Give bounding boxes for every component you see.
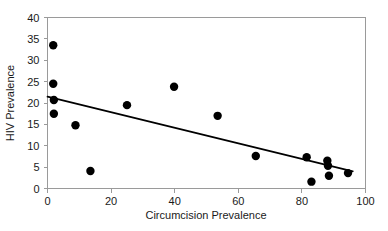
data-point <box>86 167 94 175</box>
data-point <box>324 162 332 170</box>
data-point <box>49 41 57 49</box>
y-tick-label: 20 <box>27 97 39 109</box>
y-axis-tick-marks <box>44 18 48 189</box>
data-point-series <box>49 41 352 186</box>
data-point <box>123 101 131 109</box>
data-point <box>252 152 260 160</box>
y-tick-label: 15 <box>27 118 39 130</box>
x-tick-label: 20 <box>105 195 117 207</box>
data-point <box>344 169 352 177</box>
scatter-chart-figure: 0510152025303540 020406080100 Circumcisi… <box>0 0 388 231</box>
data-point <box>213 112 221 120</box>
y-tick-label: 5 <box>33 161 39 173</box>
y-tick-label: 30 <box>27 54 39 66</box>
x-tick-label: 100 <box>356 195 374 207</box>
x-tick-label: 60 <box>232 195 244 207</box>
x-axis-tick-marks <box>48 189 366 193</box>
y-axis-title: HIV Prevalence <box>4 65 16 141</box>
data-point <box>307 177 315 185</box>
x-tick-label: 0 <box>44 195 50 207</box>
y-tick-label: 10 <box>27 140 39 152</box>
data-point <box>325 171 333 179</box>
y-axis-tick-labels: 0510152025303540 <box>27 12 39 195</box>
data-point <box>71 121 79 129</box>
y-tick-label: 0 <box>33 183 39 195</box>
x-tick-label: 80 <box>296 195 308 207</box>
data-point <box>50 109 58 117</box>
data-point <box>49 80 57 88</box>
data-point <box>50 96 58 104</box>
x-axis-title: Circumcision Prevalence <box>145 209 266 221</box>
x-tick-label: 40 <box>169 195 181 207</box>
y-tick-label: 35 <box>27 33 39 45</box>
data-point <box>302 153 310 161</box>
chart-canvas: 0510152025303540 020406080100 Circumcisi… <box>0 0 388 231</box>
x-axis-tick-labels: 020406080100 <box>44 195 374 207</box>
data-point <box>170 83 178 91</box>
y-tick-label: 25 <box>27 76 39 88</box>
y-tick-label: 40 <box>27 12 39 24</box>
